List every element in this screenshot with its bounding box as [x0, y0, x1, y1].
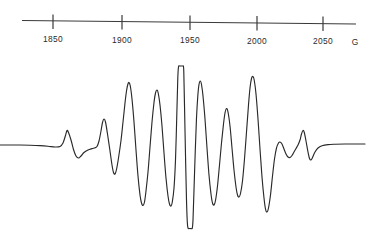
tick-label-1900: 1900 [112, 35, 132, 45]
tick-label-1950: 1950 [180, 35, 200, 45]
tick-label-2000: 2000 [247, 36, 267, 46]
axis-unit-label: G [352, 37, 359, 47]
epr-spectrum-figure: 1850 1900 1950 2000 2050 G [0, 0, 370, 242]
tick-label-1850: 1850 [43, 34, 63, 44]
tick-label-2050: 2050 [313, 36, 333, 46]
